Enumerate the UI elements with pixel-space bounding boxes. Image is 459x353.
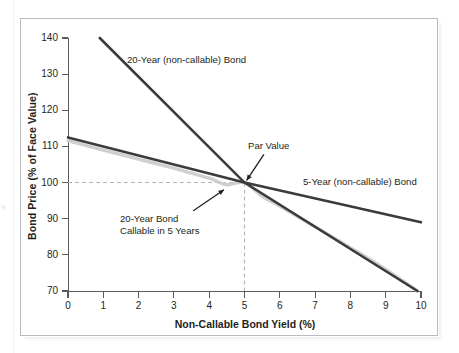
label-20-year-callable-line1: 20-Year Bond [120,213,199,225]
label-20-year-noncallable: 20-Year (non-callable) Bond [127,54,246,66]
arrow-par-value [247,154,264,180]
label-par-value: Par Value [248,140,289,152]
series-20-year-noncallable [100,38,418,291]
label-20-year-callable: 20-Year Bond Callable in 5 Years [120,213,199,236]
label-5-year-noncallable: 5-Year (non-callable) Bond [303,176,417,188]
label-20-year-callable-line2: Callable in 5 Years [120,225,199,237]
arrow-20-year-callable [193,190,224,211]
figure-page: 9 Bond Price (% of Face Value) Non-Calla… [0,0,459,353]
